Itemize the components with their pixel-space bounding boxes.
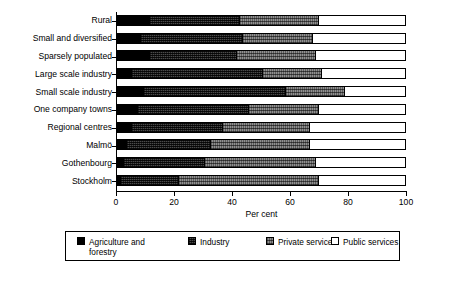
x-axis-tick [406,192,407,196]
y-axis-label: Stockholm [0,176,112,187]
bar-segment [310,123,406,132]
stacked-bar [116,50,406,61]
x-axis-tick [348,192,349,196]
y-axis-label: One company towns [0,104,112,115]
bar-segment [117,87,144,96]
bar-segment [345,87,406,96]
bar-row [116,172,406,190]
bar-segment [249,105,319,114]
bar-segment [240,16,319,25]
stacked-bar [116,139,406,150]
y-axis-category-labels: RuralSmall and diversifiedSparsely popul… [0,12,112,190]
bar-segment [310,140,406,149]
legend-swatch-icon [188,237,196,245]
y-axis-tick [112,146,116,147]
bar-segment [121,176,180,185]
legend-swatch-icon [331,237,339,245]
x-axis-line [116,191,407,192]
bar-segment [237,51,316,60]
legend-label: Agriculture and forestry [89,237,145,257]
bar-row [116,83,406,101]
bar-segment [243,34,313,43]
stacked-bar [116,157,406,168]
x-axis-tick-label: 100 [391,197,421,208]
legend-label: Private services [278,237,337,247]
legend-label: Industry [200,237,230,247]
y-axis-label: Small scale industry [0,87,112,98]
bar-row [116,119,406,137]
y-axis-tick [112,163,116,164]
y-axis-tick [112,128,116,129]
stacked-bar [116,86,406,97]
bar-row [116,48,406,66]
x-axis-tick [174,192,175,196]
y-axis-tick [112,74,116,75]
x-axis-tick-label: 0 [101,197,131,208]
y-axis-tick [112,92,116,93]
legend-item[interactable]: Industry [188,237,268,247]
stacked-bar [116,104,406,115]
bar-segment [211,140,310,149]
plot-area [116,12,406,190]
y-axis-label: Large scale industry [0,69,112,80]
y-axis-label: Malmö [0,140,112,151]
bar-segment [132,123,222,132]
bar-segment [117,34,141,43]
bar-row [116,154,406,172]
x-axis-tick-label: 80 [333,197,363,208]
legend-item[interactable]: Public services [331,237,421,247]
y-axis-label: Small and diversified [0,33,112,44]
bar-segment [144,87,286,96]
bar-segment [138,105,248,114]
bar-segment [150,51,237,60]
x-axis-title: Per cent [116,209,407,219]
y-axis-tick [112,110,116,111]
bar-segment [117,140,127,149]
bar-row [116,30,406,48]
stacked-bar [116,122,406,133]
bar-segment [319,16,406,25]
bar-segment [286,87,345,96]
x-axis-tick-label: 40 [217,197,247,208]
bar-segment [316,51,406,60]
y-axis-tick [112,39,116,40]
y-axis-label: Sparsely populated [0,51,112,62]
bar-segment [316,158,406,167]
bar-segment [263,69,322,78]
bar-row [116,137,406,155]
bar-row [116,65,406,83]
bar-segment [313,34,406,43]
bar-segment [117,105,138,114]
bar-segment [117,158,124,167]
legend-swatch-icon [77,237,85,245]
bar-segment [319,176,406,185]
bar-segment [141,34,243,43]
bar-row [116,101,406,119]
legend-swatch-icon [266,237,274,245]
bar-segment [117,69,132,78]
y-axis-label: Rural [0,15,112,26]
bar-segment [150,16,240,25]
y-axis-label: Regional centres [0,122,112,133]
bar-segment [124,158,206,167]
bar-segment [205,158,315,167]
y-axis-label: Gothenbourg [0,158,112,169]
stacked-bar [116,68,406,79]
stacked-bar [116,15,406,26]
bar-segment [117,51,150,60]
x-axis-tick [232,192,233,196]
x-axis-tick [290,192,291,196]
bar-segment [132,69,263,78]
x-axis-tick-label: 60 [275,197,305,208]
bar-segment [223,123,310,132]
bar-segment [179,176,318,185]
bar-segment [319,105,406,114]
bar-segment [117,123,132,132]
legend-item[interactable]: Agriculture and forestry [77,237,172,257]
y-axis-tick [112,181,116,182]
y-axis-tick [112,57,116,58]
stacked-bar [116,175,406,186]
bar-segment [322,69,406,78]
legend: Agriculture and forestryIndustryPrivate … [65,231,400,261]
x-axis-tick-label: 20 [159,197,189,208]
